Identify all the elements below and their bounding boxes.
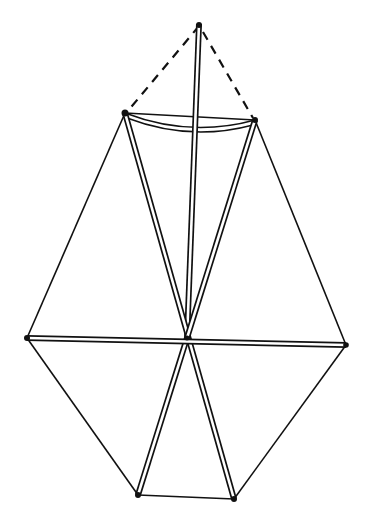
joints [24,22,349,502]
kite-diagram [0,0,389,525]
spine-spar [187,24,199,340]
top-bow [125,113,255,128]
upper-left-spar [125,113,234,499]
upper-right-spar [138,120,255,495]
dashed-guides [127,26,253,118]
spars [27,24,346,499]
